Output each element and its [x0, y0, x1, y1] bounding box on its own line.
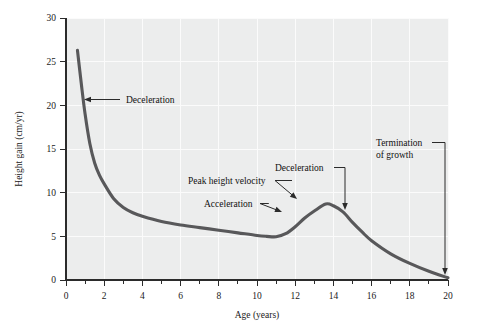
x-tick-label: 0	[64, 291, 69, 301]
x-tick-label: 18	[405, 291, 415, 301]
y-tick-label: 0	[51, 275, 56, 285]
y-axis-ticks	[60, 18, 66, 280]
x-tick-label: 10	[252, 291, 262, 301]
x-tick-label: 12	[290, 291, 300, 301]
x-tick-label: 6	[178, 291, 183, 301]
y-tick-label: 30	[47, 13, 57, 23]
annotation-label: Deceleration	[126, 95, 175, 105]
x-tick-label: 20	[443, 291, 453, 301]
y-axis-title: Height gain (cm/yr)	[14, 111, 25, 186]
annotation-label: Deceleration	[275, 163, 324, 173]
y-tick-label: 5	[51, 232, 56, 242]
y-tick-label: 15	[47, 144, 57, 154]
x-tick-label: 2	[102, 291, 107, 301]
y-tick-label: 20	[47, 101, 57, 111]
x-tick-label: 16	[367, 291, 377, 301]
height-velocity-chart: 02468101214161820 051015202530 Age (year…	[0, 0, 478, 331]
y-axis-tick-labels: 051015202530	[47, 13, 57, 285]
annotation-label: Acceleration	[204, 199, 253, 209]
growth-velocity-figure: 02468101214161820 051015202530 Age (year…	[0, 0, 478, 331]
x-axis-title: Age (years)	[235, 310, 280, 321]
x-axis-tick-labels: 02468101214161820	[64, 291, 453, 301]
annotation-label-line2: of growth	[376, 150, 413, 160]
x-tick-label: 14	[329, 291, 339, 301]
annotation-label-line1: Termination	[376, 138, 423, 148]
annotation-label: Peak height velocity	[188, 176, 266, 186]
x-tick-label: 8	[216, 291, 221, 301]
x-tick-label: 4	[140, 291, 145, 301]
y-tick-label: 10	[47, 188, 57, 198]
x-axis-ticks	[66, 280, 448, 286]
y-tick-label: 25	[47, 57, 57, 67]
